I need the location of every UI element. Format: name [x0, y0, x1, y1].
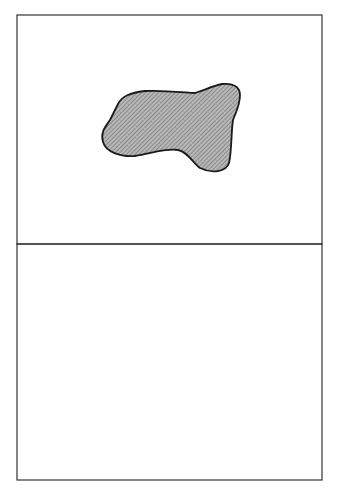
hybrid-patch [102, 84, 240, 172]
bottom-panel-frame [17, 244, 322, 480]
hybrid-zone-diagram [0, 0, 343, 498]
